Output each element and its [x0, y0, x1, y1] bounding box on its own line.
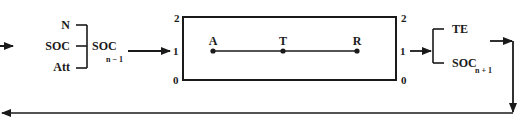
- state-box: [183, 17, 396, 80]
- diagram-canvas: N SOC Att SOC n − 1 2 1 0 A T R 2 1 0 TE…: [0, 0, 527, 127]
- right-tick-1: 1: [400, 45, 406, 57]
- input-bracket: [76, 25, 87, 68]
- point-label-t: T: [279, 34, 287, 48]
- output-bracket: [433, 29, 444, 63]
- output-label-te: TE: [452, 22, 468, 36]
- point-r: [354, 48, 359, 53]
- left-tick-0: 0: [173, 74, 179, 86]
- right-tick-0: 0: [401, 74, 407, 86]
- left-tick-2: 2: [174, 12, 180, 24]
- point-a: [210, 48, 215, 53]
- output-label-soc: SOC: [452, 56, 477, 70]
- point-label-a: A: [209, 34, 218, 48]
- input-label-att: Att: [53, 60, 70, 74]
- combined-soc-label: SOC: [92, 39, 117, 53]
- input-label-soc: SOC: [45, 39, 70, 53]
- input-label-n: N: [61, 18, 70, 32]
- right-tick-2: 2: [401, 12, 407, 24]
- point-label-r: R: [353, 34, 362, 48]
- output-soc-subscript: n + 1: [475, 66, 492, 75]
- point-t: [280, 48, 285, 53]
- combined-soc-subscript: n − 1: [106, 55, 123, 64]
- left-tick-1: 1: [173, 45, 179, 57]
